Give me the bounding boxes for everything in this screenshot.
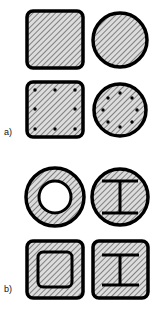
rebar-dot [118, 91, 121, 94]
plain-circular-section [93, 13, 147, 67]
rebar-dot [130, 96, 133, 99]
hollow-circular-section [20, 162, 90, 232]
reinforced-square-section [27, 82, 83, 137]
rebar-dot [106, 120, 109, 123]
rebar-dot [101, 108, 104, 111]
rebar-dot [106, 96, 109, 99]
rebar-dot [135, 108, 138, 111]
i-beam-in-circle-section [92, 169, 148, 225]
plain-square-section [27, 11, 83, 68]
reinforced-circular-section [94, 84, 146, 136]
rebar-dot [118, 125, 121, 128]
rebar-dot [73, 127, 76, 130]
rebar-dot [53, 127, 56, 130]
rebar-dot [53, 88, 56, 91]
rebar-dot [33, 127, 36, 130]
i-beam-in-square-section [93, 241, 148, 298]
hollow-square-section [27, 241, 83, 298]
rebar-dot [130, 120, 133, 123]
rebar-dot [73, 88, 76, 91]
panel-label-a: a) [4, 128, 12, 137]
rebar-dot [73, 107, 76, 110]
cross-section-figure [0, 0, 158, 312]
panel-label-b: b) [4, 285, 12, 294]
rebar-dot [33, 107, 36, 110]
rebar-dot [33, 88, 36, 91]
